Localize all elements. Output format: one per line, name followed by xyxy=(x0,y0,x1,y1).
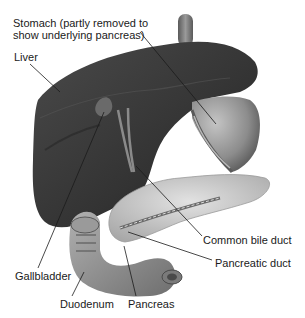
label-pancreatic-duct: Pancreatic duct xyxy=(215,257,291,269)
leader-liver xyxy=(30,64,60,92)
label-stomach-line1: Stomach (partly removed to xyxy=(13,17,148,29)
label-stomach: Stomach (partly removed to show underlyi… xyxy=(13,17,148,41)
label-stomach-line2: show underlying pancreas) xyxy=(13,29,148,41)
label-common-bile-duct: Common bile duct xyxy=(203,234,292,246)
anatomy-figure: Stomach (partly removed to show underlyi… xyxy=(0,0,305,318)
label-liver: Liver xyxy=(14,51,38,63)
esophagus xyxy=(178,14,193,46)
label-gallbladder: Gallbladder xyxy=(15,270,71,282)
label-pancreas: Pancreas xyxy=(128,298,174,310)
label-duodenum: Duodenum xyxy=(60,298,114,310)
leader-pancreatic-duct xyxy=(128,232,212,260)
